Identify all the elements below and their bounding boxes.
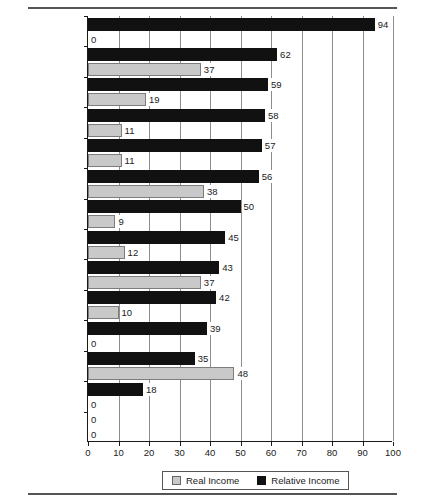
legend-swatch-relative-income	[257, 476, 266, 485]
bar-relative-income	[88, 200, 241, 213]
x-tick-mark	[149, 442, 150, 446]
bar-real-income	[88, 124, 122, 137]
bar-relative-income	[88, 139, 262, 152]
bar-value-label-relative-income: 57	[263, 139, 276, 152]
bar-relative-income	[88, 18, 375, 31]
bar-group: Sweden5919	[88, 78, 392, 108]
bar-group: Norway5638	[88, 170, 392, 200]
bar-real-income	[88, 306, 119, 319]
bar-group: Denmark6237	[88, 48, 392, 78]
x-tick-mark	[271, 442, 272, 446]
x-tick-label: 100	[378, 447, 408, 458]
bar-group: Belgium5811	[88, 109, 392, 139]
x-tick-mark	[119, 442, 120, 446]
bar-value-label-relative-income: 50	[242, 200, 255, 213]
x-tick-label: 0	[73, 447, 103, 458]
bar-relative-income	[88, 383, 143, 396]
x-tick-label: 20	[134, 447, 164, 458]
bar-group: Spain180	[88, 383, 392, 413]
bar-relative-income	[88, 352, 195, 365]
bar-relative-income	[88, 322, 207, 335]
bar-group: Australia390	[88, 322, 392, 352]
bar-relative-income	[88, 261, 219, 274]
x-tick-mark	[210, 442, 211, 446]
bar-value-label-relative-income: 56	[260, 170, 273, 183]
legend-item-real-income: Real Income	[172, 475, 239, 486]
bar-real-income	[88, 246, 125, 259]
bar-value-label-real-income: 0	[89, 428, 96, 441]
bar-value-label-real-income: 0	[89, 33, 96, 46]
top-horizontal-rule	[28, 7, 397, 9]
bar-value-label-real-income: 9	[116, 215, 123, 228]
x-tick-label: 90	[348, 447, 378, 458]
bar-relative-income	[88, 231, 225, 244]
bar-real-income	[88, 93, 146, 106]
bar-value-label-relative-income: 18	[144, 383, 157, 396]
bar-value-label-relative-income: 42	[217, 291, 230, 304]
bar-group: Italy00	[88, 413, 392, 443]
bar-relative-income	[88, 170, 259, 183]
bar-real-income	[88, 367, 234, 380]
bar-value-label-relative-income: 59	[269, 78, 282, 91]
x-tick-label: 60	[256, 447, 286, 458]
x-tick-mark	[302, 442, 303, 446]
chart-legend: Real Income Relative Income	[162, 471, 349, 490]
x-tick-mark	[363, 442, 364, 446]
legend-label-relative-income: Relative Income	[271, 475, 339, 486]
bar-real-income	[88, 276, 201, 289]
bar-value-label-real-income: 11	[123, 124, 135, 137]
bar-group: Canada4337	[88, 261, 392, 291]
x-tick-label: 30	[165, 447, 195, 458]
x-tick-label: 40	[195, 447, 225, 458]
bar-value-label-relative-income: 39	[208, 322, 221, 335]
bar-relative-income	[88, 78, 268, 91]
bar-value-label-relative-income: 94	[376, 18, 389, 31]
bar-value-label-real-income: 37	[202, 276, 215, 289]
x-tick-mark	[393, 442, 394, 446]
bar-value-label-real-income: 38	[205, 185, 218, 198]
bar-value-label-real-income: 10	[120, 306, 133, 319]
x-tick-mark	[88, 442, 89, 446]
x-tick-label: 80	[317, 447, 347, 458]
x-tick-label: 10	[104, 447, 134, 458]
bar-group: Netherlands4512	[88, 231, 392, 261]
bar-group: Finland5711	[88, 139, 392, 169]
bar-relative-income	[88, 48, 277, 61]
legend-item-relative-income: Relative Income	[257, 475, 339, 486]
bar-real-income	[88, 215, 115, 228]
bar-value-label-relative-income: 43	[220, 261, 233, 274]
bar-value-label-relative-income: 62	[278, 48, 291, 61]
y-tick-mark	[84, 412, 88, 413]
bar-value-label-relative-income: 45	[226, 231, 239, 244]
bar-value-label-real-income: 37	[202, 63, 215, 76]
bar-value-label-real-income: 48	[235, 367, 248, 380]
bar-chart: United Kingdom940Denmark6237Sweden5919Be…	[0, 14, 425, 474]
bar-value-label-relative-income: 35	[196, 352, 209, 365]
bar-group: Germany4210	[88, 291, 392, 321]
x-tick-label: 50	[226, 447, 256, 458]
bar-real-income	[88, 63, 201, 76]
bar-real-income	[88, 154, 122, 167]
bar-value-label-relative-income: 58	[266, 109, 279, 122]
plot-area: United Kingdom940Denmark6237Sweden5919Be…	[87, 16, 392, 442]
bar-relative-income	[88, 109, 265, 122]
legend-label-real-income: Real Income	[186, 475, 239, 486]
bar-value-label-relative-income: 0	[89, 413, 96, 426]
bar-value-label-real-income: 12	[126, 246, 139, 259]
x-tick-mark	[332, 442, 333, 446]
x-tick-mark	[180, 442, 181, 446]
bar-group: United Kingdom940	[88, 18, 392, 48]
bar-value-label-real-income: 0	[89, 337, 96, 350]
bar-group: France509	[88, 200, 392, 230]
bar-group: Switzerland3548	[88, 352, 392, 382]
gridline	[393, 16, 394, 441]
bar-relative-income	[88, 291, 216, 304]
bar-real-income	[88, 185, 204, 198]
bar-value-label-real-income: 0	[89, 398, 96, 411]
x-tick-mark	[241, 442, 242, 446]
bar-value-label-real-income: 11	[123, 154, 135, 167]
bottom-horizontal-rule	[28, 493, 397, 495]
legend-swatch-real-income	[172, 476, 181, 485]
x-tick-label: 70	[287, 447, 317, 458]
bar-value-label-real-income: 19	[147, 93, 160, 106]
